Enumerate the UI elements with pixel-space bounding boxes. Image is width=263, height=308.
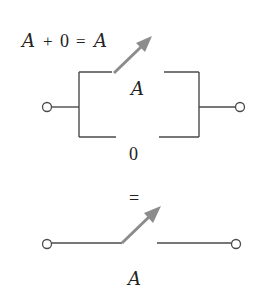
title-zero: 0 (60, 31, 69, 51)
boolean-identity-diagram: A + 0 = A A 0 = (0, 0, 263, 308)
title-a1: A (20, 30, 35, 51)
parallel-circuit: A 0 (43, 36, 245, 164)
title-a2: A (92, 30, 107, 51)
top-switch-arrow-icon (114, 36, 152, 73)
equation-title: A + 0 = A (20, 30, 107, 51)
bottom-branch-label: 0 (129, 144, 138, 164)
switch-arrow-icon (122, 206, 161, 243)
equivalence-symbol: = (129, 188, 139, 208)
right-terminal-icon (236, 103, 245, 112)
right-terminal-icon (232, 240, 241, 249)
top-branch-label: A (129, 78, 144, 99)
left-terminal-icon (43, 240, 52, 249)
switch-label: A (126, 268, 141, 289)
title-equals: = (76, 32, 86, 51)
left-terminal-icon (43, 103, 52, 112)
title-plus: + (43, 32, 53, 51)
single-switch-circuit: A (43, 206, 241, 289)
